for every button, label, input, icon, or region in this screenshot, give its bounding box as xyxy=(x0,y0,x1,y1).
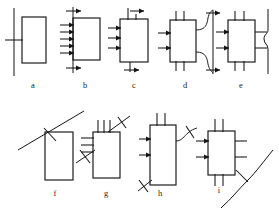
figure-root: a b c xyxy=(0,0,279,212)
figure-canvas: a b c xyxy=(0,0,279,212)
panel-a-label: a xyxy=(31,80,35,90)
panel-f-label: f xyxy=(54,188,57,198)
panel-b-label: b xyxy=(83,80,87,90)
panel-e-label: e xyxy=(239,80,243,90)
panel-c-label: c xyxy=(132,80,136,90)
